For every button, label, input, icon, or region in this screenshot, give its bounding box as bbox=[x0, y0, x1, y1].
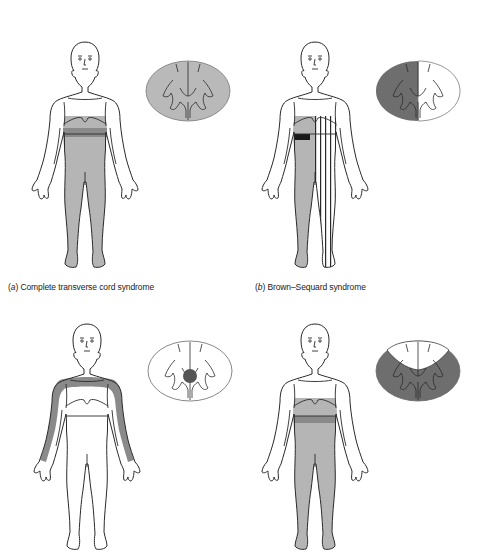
cord-section-d bbox=[373, 338, 463, 404]
panel-c bbox=[0, 300, 245, 514]
central-lesion bbox=[183, 369, 197, 383]
caption-b: (b) Brown–Sequard syndrome bbox=[255, 282, 366, 292]
panel-d bbox=[245, 300, 489, 514]
lesion-level-band bbox=[294, 134, 310, 140]
panel-b: (b) Brown–Sequard syndrome bbox=[245, 0, 489, 290]
cord-section-b bbox=[373, 58, 463, 124]
lesion-level-band bbox=[294, 416, 336, 423]
caption-title: Complete transverse cord syndrome bbox=[20, 282, 154, 292]
caption-a: (a) Complete transverse cord syndrome bbox=[8, 282, 154, 292]
panel-a: (a) Complete transverse cord syndrome bbox=[0, 0, 245, 290]
cord-section-a bbox=[143, 58, 233, 124]
body-figure-a bbox=[30, 40, 140, 270]
body-figure-c bbox=[32, 322, 142, 552]
lesion-level-band bbox=[63, 128, 107, 137]
body-figure-b bbox=[260, 40, 370, 270]
caption-title: Brown–Sequard syndrome bbox=[267, 282, 365, 292]
cord-section-c bbox=[145, 338, 235, 404]
body-figure-d bbox=[260, 322, 370, 552]
